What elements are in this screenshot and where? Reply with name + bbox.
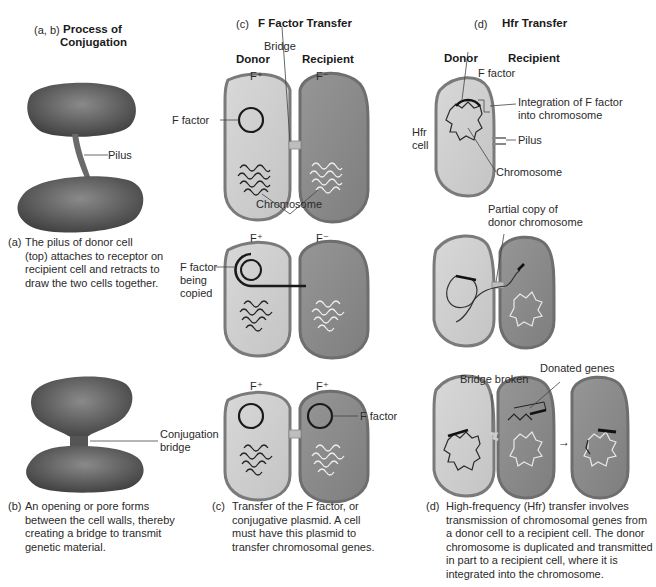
c-row2-f-factor-line2: being [180,274,207,287]
conjugation-bridge-label-line2: bridge [160,441,191,454]
caption-c-text: Transfer of the F factor, or conjugative… [232,500,412,554]
c-row2-donor-type: F⁺ [250,232,263,245]
caption-d-text: High-frequency (Hfr) transfer involves t… [446,500,656,581]
caption-d: (d) High-frequency (Hfr) transfer involv… [426,500,656,581]
c-row2-recipient-type: F⁻ [316,232,329,245]
c-row2-f-factor-line1: F factor [180,261,217,274]
partial-copy-illustration [434,234,554,348]
d-donor-label: Donor [444,52,478,64]
caption-b-text: An opening or pore forms between the cel… [25,500,208,554]
caption-a-label: (a) [8,236,21,250]
conjugation-bridge-illustration [26,376,158,492]
pilus-label: Pilus [108,149,132,162]
c-row3-recipient-type: F⁺ [316,380,329,393]
c-row3-donor-type: F⁺ [250,380,263,393]
panel-d-title: Hfr Transfer [502,17,567,29]
c-row1-donor-type: F⁺ [250,70,263,83]
c-row2-f-factor-line3: copied [180,287,212,300]
panel-ab-label: (a, b) [34,24,60,37]
bridge-broken-illustration [434,376,628,498]
caption-c-label: (c) [212,500,225,514]
partial-copy-label-line1: Partial copy of [488,203,558,216]
bridge-broken-label: Bridge broken [460,373,529,386]
conjugation-bridge-label-line1: Conjugation [160,428,219,441]
panel-ab-title-line2: Conjugation [60,36,127,48]
caption-b: (b) An opening or pore forms between the… [8,500,208,554]
panel-c-label: (c) [236,18,249,31]
caption-c: (c) Transfer of the F factor, or conjuga… [212,500,412,554]
f-factor-transfer-row3 [225,391,368,502]
panel-d-label: (d) [474,18,487,31]
c-row3-f-factor-label: F factor [360,410,397,423]
c-row1-chromosome-label: Chromosome [256,198,322,211]
c-row1-f-factor-label: F factor [172,114,209,127]
bridge-label: Bridge [264,40,296,53]
c-donor-label: Donor [236,53,270,65]
arrow-right-icon: → [558,436,570,449]
d-f-factor-label: F factor [478,67,515,80]
caption-a: (a) The pilus of donor cell (top) attach… [8,236,208,290]
d-chromosome-label: Chromosome [496,166,562,179]
f-factor-transfer-row2 [216,241,368,358]
hfr-cell-label-line1: Hfr [412,126,427,139]
hfr-cell-label-line2: cell [412,139,429,152]
diagram-graphics [0,0,656,587]
c-recipient-label: Recipient [302,53,354,65]
d-recipient-label: Recipient [508,52,560,64]
donated-genes-label: Donated genes [540,362,615,375]
integration-label-line1: Integration of F factor [518,96,623,109]
d-pilus-label: Pilus [518,134,542,147]
c-row1-recipient-type: F⁻ [316,70,329,83]
panel-c-title: F Factor Transfer [258,17,352,29]
caption-d-label: (d) [426,500,439,514]
integration-label-line2: into chromosome [518,109,602,122]
panel-ab-title-line1: Process of [63,23,122,35]
partial-copy-label-line2: donor chromosome [488,216,583,229]
caption-b-label: (b) [8,500,21,514]
